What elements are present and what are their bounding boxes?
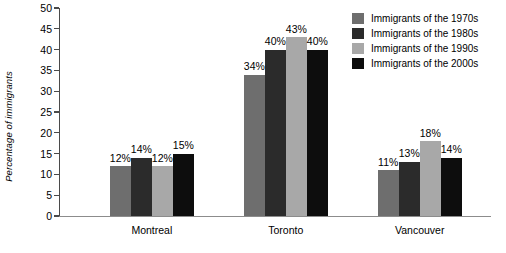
bar-value-label: 15% — [173, 140, 194, 151]
legend-item[interactable]: Immigrants of the 2000s — [352, 56, 478, 71]
y-axis-tick-label: 25 — [18, 107, 52, 118]
bar-column[interactable]: 40% — [307, 8, 328, 216]
legend-swatch-icon — [352, 43, 364, 54]
bar[interactable] — [110, 166, 131, 216]
bar-value-label: 11% — [378, 157, 398, 168]
x-axis-category-label: Montreal — [102, 224, 202, 236]
x-axis-category-label: Vancouver — [370, 224, 470, 236]
legend-swatch-icon — [352, 58, 364, 69]
bar-value-label: 34% — [244, 61, 265, 72]
bar-column[interactable]: 12% — [152, 8, 173, 216]
bar-value-label: 12% — [110, 153, 131, 164]
bar-value-label: 12% — [152, 153, 173, 164]
y-axis-tick-label: 45 — [18, 24, 52, 35]
legend-swatch-icon — [352, 13, 364, 24]
bar-column[interactable]: 15% — [173, 8, 194, 216]
legend-item[interactable]: Immigrants of the 1980s — [352, 26, 478, 41]
legend-label: Immigrants of the 2000s — [371, 59, 478, 69]
y-axis-tick-label: 40 — [18, 45, 52, 56]
bar-value-label: 13% — [399, 148, 420, 159]
legend-item[interactable]: Immigrants of the 1970s — [352, 11, 478, 26]
y-axis-title: Percentage of immigrants — [0, 0, 16, 253]
y-axis-tick-label: 0 — [18, 211, 52, 222]
bar-column[interactable]: 40% — [265, 8, 286, 216]
bar[interactable] — [286, 37, 307, 216]
bar[interactable] — [399, 162, 420, 216]
y-axis-tick-label: 20 — [18, 128, 52, 139]
bar[interactable] — [244, 75, 265, 216]
legend-swatch-icon — [352, 28, 364, 39]
x-axis-category-label: Toronto — [236, 224, 336, 236]
bar-column[interactable]: 34% — [244, 8, 265, 216]
legend-label: Immigrants of the 1980s — [371, 29, 478, 39]
bar-value-label: 18% — [420, 128, 441, 139]
y-axis-tick-label: 35 — [18, 65, 52, 76]
bar[interactable] — [378, 170, 399, 216]
y-axis-tick-label: 50 — [18, 3, 52, 14]
bar[interactable] — [173, 154, 194, 216]
legend-label: Immigrants of the 1970s — [371, 14, 478, 24]
bar-value-label: 40% — [307, 36, 328, 47]
bar-column[interactable]: 14% — [131, 8, 152, 216]
y-axis-tick-label: 10 — [18, 169, 52, 180]
bar-group: 34%40%43%40% — [244, 8, 328, 216]
y-axis-tick-label: 15 — [18, 149, 52, 160]
bar[interactable] — [152, 166, 173, 216]
legend: Immigrants of the 1970sImmigrants of the… — [352, 11, 478, 71]
bar-column[interactable]: 43% — [286, 8, 307, 216]
bar-value-label: 43% — [286, 24, 307, 35]
bar-chart: Percentage of immigrants 051015202530354… — [0, 0, 506, 253]
bar-value-label: 14% — [131, 144, 152, 155]
bar-value-label: 14% — [441, 144, 462, 155]
legend-item[interactable]: Immigrants of the 1990s — [352, 41, 478, 56]
y-axis-tick-label: 5 — [18, 190, 52, 201]
bar-group: 12%14%12%15% — [110, 8, 194, 216]
y-axis-tick-label: 30 — [18, 86, 52, 97]
bar[interactable] — [441, 158, 462, 216]
bar-column[interactable]: 12% — [110, 8, 131, 216]
bar[interactable] — [131, 158, 152, 216]
bar-value-label: 40% — [265, 36, 286, 47]
bar[interactable] — [307, 50, 328, 216]
legend-label: Immigrants of the 1990s — [371, 44, 478, 54]
bar[interactable] — [265, 50, 286, 216]
bar[interactable] — [420, 141, 441, 216]
